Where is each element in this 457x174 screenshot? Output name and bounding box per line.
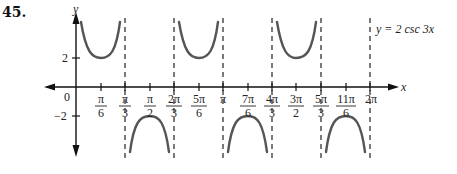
- branch-up-3: [179, 22, 218, 58]
- problem-number: 45.: [2, 4, 26, 20]
- tick-numerator: π: [98, 92, 104, 106]
- tick-numerator: 5π: [193, 92, 205, 106]
- equation-label: y = 2 csc 3x: [375, 22, 435, 36]
- tick-numerator: 4π: [266, 92, 278, 106]
- tick-numerator: 7π: [242, 92, 254, 106]
- branch-down-2: [130, 116, 169, 152]
- tick-denominator: 6: [343, 106, 349, 120]
- y-axis-label: y: [72, 2, 79, 16]
- x-tick-label: 2π 3: [166, 92, 182, 120]
- x-tick-label: 5π 3: [313, 92, 329, 120]
- branch-down-4: [228, 116, 267, 152]
- x-tick-label: 5π 6: [191, 92, 207, 120]
- tick-numerator: π: [122, 92, 128, 106]
- tick-denominator: 2: [293, 106, 299, 120]
- x-tick-label: 11π 6: [336, 92, 356, 120]
- tick-denominator: 3: [318, 106, 324, 120]
- x-axis-left-arrow-icon: [44, 84, 55, 91]
- tick-numerator: π: [147, 92, 153, 106]
- tick-numerator: 2π: [365, 92, 377, 106]
- branch-down-6: [326, 116, 365, 152]
- x-tick-labels: π 6 π 3 π 2 2π 3 5π 6 π 7π: [95, 92, 377, 120]
- x-tick-label: π 3: [119, 92, 131, 120]
- tick-denominator: 6: [98, 106, 104, 120]
- x-tick-label: π: [220, 92, 226, 106]
- tick-numerator: π: [220, 92, 226, 106]
- y-tick-label-neg2: −2: [54, 109, 67, 123]
- tick-numerator: 2π: [168, 92, 180, 106]
- tick-denominator: 3: [122, 106, 128, 120]
- y-axis-down-arrow-icon: [73, 145, 80, 157]
- branch-up-5: [277, 22, 316, 58]
- csc-graph: 45.: [0, 0, 457, 174]
- tick-numerator: 11π: [337, 92, 355, 106]
- x-axis-right-arrow-icon: [388, 84, 399, 91]
- x-axis-label: x: [400, 80, 407, 94]
- tick-numerator: 5π: [315, 92, 327, 106]
- x-tick-label: 3π 2: [288, 92, 304, 120]
- tick-denominator: 6: [196, 106, 202, 120]
- axes: [44, 12, 399, 157]
- tick-denominator: 3: [171, 106, 177, 120]
- origin-label: 0: [64, 90, 70, 104]
- x-tick-label: 2π: [365, 92, 377, 106]
- y-tick-label-2: 2: [62, 51, 68, 65]
- x-tick-label: π 6: [95, 92, 107, 120]
- tick-denominator: 3: [269, 106, 275, 120]
- x-tick-label: 4π 3: [264, 92, 280, 120]
- branch-up-1: [81, 22, 120, 58]
- tick-numerator: 3π: [290, 92, 302, 106]
- tick-denominator: 2: [147, 106, 153, 120]
- tick-denominator: 6: [245, 106, 251, 120]
